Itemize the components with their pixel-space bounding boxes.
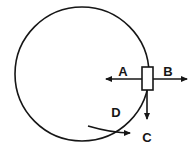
vector-c-label: C [142,130,152,145]
vector-b-label: B [163,64,172,79]
vector-d-label: D [111,105,120,120]
circular-path-circle [15,7,149,141]
block-rect [142,67,153,90]
vector-a-label: A [118,64,128,79]
diagram-canvas: A B C D [0,0,196,147]
physics-diagram: A B C D [0,0,196,147]
